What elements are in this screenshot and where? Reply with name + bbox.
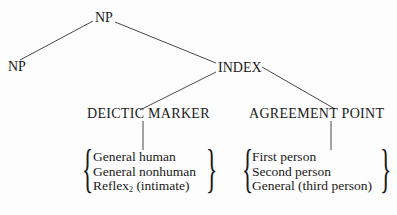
edge-np-index — [115, 22, 216, 63]
left-np-label: NP — [8, 60, 26, 74]
deictic-marker-label: DEICTIC MARKER — [87, 107, 210, 121]
agreement-options-list: First person Second person General (thir… — [252, 150, 372, 194]
right-brace-icon: } — [206, 147, 217, 191]
deictic-options-list: General human General nonhuman Reflex2 (… — [93, 150, 196, 198]
left-brace-icon: { — [82, 147, 93, 191]
right-brace-icon: } — [380, 147, 391, 191]
deictic-option: General nonhuman — [93, 165, 196, 180]
edge-index-deictic — [140, 72, 216, 110]
agreement-option: Second person — [252, 165, 372, 180]
index-label: INDEX — [218, 61, 262, 75]
root-np-label: NP — [95, 11, 113, 25]
syntax-tree-diagram: NP NP INDEX DEICTIC MARKER AGREEMENT POI… — [0, 0, 397, 215]
deictic-option: Reflex2 (intimate) — [93, 179, 196, 198]
agreement-option: First person — [252, 150, 372, 165]
edge-np-np — [20, 21, 93, 60]
edge-index-agreement — [262, 67, 335, 109]
agreement-option: General (third person) — [252, 179, 372, 194]
deictic-option: General human — [93, 150, 196, 165]
agreement-point-label: AGREEMENT POINT — [249, 107, 384, 121]
